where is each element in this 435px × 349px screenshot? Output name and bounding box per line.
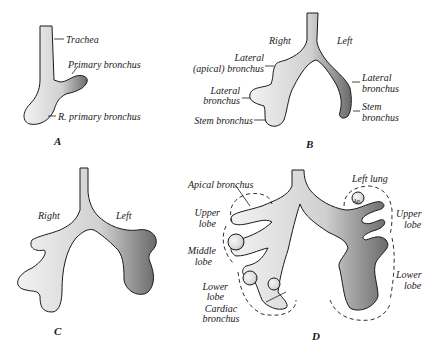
label-d-cardiac-2: bronchus <box>196 314 246 324</box>
panel-b-drawing <box>250 13 352 126</box>
label-b-stem-l-2: bronchus <box>362 113 399 123</box>
label-b-left: Left <box>337 36 353 46</box>
panel-letter-a: A <box>54 135 61 147</box>
label-b-lateral-l-2: bronchus <box>362 84 399 94</box>
label-trachea: Trachea <box>66 35 99 45</box>
label-d-upper-lobe-r-1: Upper <box>180 208 220 218</box>
label-d-upper-lobe-r-2: lobe <box>180 219 216 229</box>
panel-letter-d: D <box>312 330 320 342</box>
label-c-left: Left <box>116 211 132 221</box>
label-b-lateral-apical-1: Lateral <box>224 53 264 63</box>
label-primary-bronchus: Primary bronchus <box>68 60 141 70</box>
label-d-lower-lobe-r-2: lobe <box>190 292 224 302</box>
label-b-right: Right <box>269 36 291 46</box>
panel-letter-c: C <box>54 325 61 337</box>
panel-c-drawing <box>18 168 157 312</box>
label-b-stem-r: Stem bronchus <box>180 116 253 126</box>
label-d-upper-lobe-l-1: Upper <box>396 209 422 219</box>
label-b-lateral-l-1: Lateral <box>362 73 391 83</box>
label-d-left-lung: Left lung <box>352 174 388 184</box>
label-b-lateral-r-2: bronchus <box>190 96 240 106</box>
label-d-lower-lobe-l-2: lobe <box>404 281 421 291</box>
label-d-apical-bronchus: Apical bronchus <box>188 180 253 190</box>
label-d-middle-lobe-1: Middle <box>170 246 216 256</box>
label-c-right: Right <box>38 211 60 221</box>
label-b-lateral-apical-2: (apical) bronchus <box>184 64 264 74</box>
label-d-lower-lobe-l-1: Lower <box>396 270 422 280</box>
label-d-ap: Ap. <box>353 196 361 206</box>
label-d-upper-lobe-l-2: lobe <box>404 220 421 230</box>
panel-d-drawing <box>223 170 394 320</box>
panel-letter-b: B <box>306 138 313 150</box>
label-d-middle-lobe-2: lobe <box>176 257 212 267</box>
label-r-primary-bronchus: R. primary bronchus <box>58 112 141 122</box>
label-b-stem-l-1: Stem <box>362 102 381 112</box>
